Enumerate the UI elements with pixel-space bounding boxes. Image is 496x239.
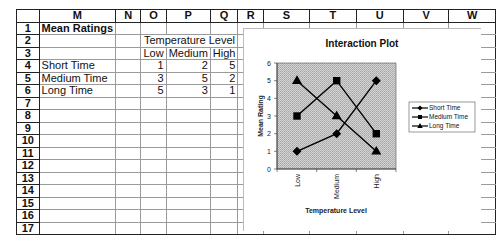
cell[interactable] [166,210,210,223]
cell-m4[interactable]: Short Time [39,60,116,73]
column-header-m[interactable]: M [39,10,116,23]
cell-m3[interactable] [39,47,116,60]
cell[interactable] [39,197,116,210]
cell[interactable] [210,122,238,135]
cell-p4[interactable]: 2 [166,60,210,73]
cell[interactable] [116,122,141,135]
cell[interactable] [166,135,210,148]
cell-o1[interactable] [141,22,166,35]
row-header-7[interactable]: 7 [17,97,40,110]
cell[interactable] [141,172,166,185]
cell[interactable] [210,222,238,235]
cell[interactable] [210,197,238,210]
cell-q4[interactable]: 5 [210,60,238,73]
row-header-15[interactable]: 15 [17,197,40,210]
cell-m1[interactable]: Mean Ratings [39,22,116,35]
cell[interactable] [39,160,116,173]
cell[interactable] [116,110,141,123]
cell-o3[interactable]: Low [141,47,166,60]
column-header-t[interactable]: T [310,10,356,23]
cell[interactable] [166,185,210,198]
cell-o2[interactable]: Temperature Level [141,35,238,48]
legend[interactable]: Short Time Medium Time Long Time [409,102,475,132]
row-header-6[interactable]: 6 [17,85,40,98]
cell[interactable] [116,210,141,223]
cell[interactable] [39,185,116,198]
cell[interactable] [210,147,238,160]
cell[interactable] [39,135,116,148]
cell[interactable] [116,135,141,148]
cell[interactable] [116,172,141,185]
cell-p5[interactable]: 5 [166,72,210,85]
cell-m2[interactable] [39,35,116,48]
row-header-12[interactable]: 12 [17,160,40,173]
cell-q6[interactable]: 1 [210,85,238,98]
cell[interactable] [141,160,166,173]
cell[interactable] [39,210,116,223]
cell-p3[interactable]: Medium [166,47,210,60]
cell-p1[interactable] [166,22,210,35]
row-header-16[interactable]: 16 [17,210,40,223]
cell[interactable] [116,160,141,173]
column-header-r[interactable]: R [238,10,263,23]
row-header-13[interactable]: 13 [17,172,40,185]
cell-n6[interactable] [116,85,141,98]
cell[interactable] [141,210,166,223]
cell[interactable] [166,110,210,123]
row-header-9[interactable]: 9 [17,122,40,135]
cell[interactable] [210,172,238,185]
cell[interactable] [141,97,166,110]
cell[interactable] [116,147,141,160]
column-header-w[interactable]: W [449,10,496,23]
row-header-4[interactable]: 4 [17,60,40,73]
cell[interactable] [166,147,210,160]
cell[interactable] [39,172,116,185]
cell[interactable] [39,122,116,135]
cell-n4[interactable] [116,60,141,73]
column-header-u[interactable]: U [356,10,403,23]
cell-p6[interactable]: 3 [166,85,210,98]
column-header-p[interactable]: P [166,10,210,23]
cell[interactable] [116,185,141,198]
row-header-14[interactable]: 14 [17,185,40,198]
cell-n2[interactable] [116,35,141,48]
row-header-2[interactable]: 2 [17,35,40,48]
cell[interactable] [116,222,141,235]
cell-q5[interactable]: 2 [210,72,238,85]
row-header-17[interactable]: 17 [17,222,40,235]
row-header-5[interactable]: 5 [17,72,40,85]
cell-m5[interactable]: Medium Time [39,72,116,85]
cell[interactable] [166,172,210,185]
column-header-o[interactable]: O [141,10,166,23]
cell[interactable] [166,197,210,210]
cell[interactable] [116,197,141,210]
cell[interactable] [39,97,116,110]
cell[interactable] [210,185,238,198]
row-header-8[interactable]: 8 [17,110,40,123]
cell[interactable] [210,135,238,148]
cell[interactable] [39,222,116,235]
cell[interactable] [141,185,166,198]
cell[interactable] [141,197,166,210]
cell[interactable] [210,97,238,110]
row-header-1[interactable]: 1 [17,22,40,35]
cell-m6[interactable]: Long Time [39,85,116,98]
cell[interactable] [116,97,141,110]
cell[interactable] [141,110,166,123]
column-header-q[interactable]: Q [210,10,238,23]
cell-q1[interactable] [210,22,238,35]
row-header-11[interactable]: 11 [17,147,40,160]
cell-o6[interactable]: 5 [141,85,166,98]
cell[interactable] [166,122,210,135]
cell-n3[interactable] [116,47,141,60]
cell-n1[interactable] [116,22,141,35]
cell[interactable] [141,222,166,235]
cell-n5[interactable] [116,72,141,85]
cell[interactable] [166,97,210,110]
cell[interactable] [166,222,210,235]
row-header-10[interactable]: 10 [17,135,40,148]
row-header-3[interactable]: 3 [17,47,40,60]
cell[interactable] [210,160,238,173]
cell-o5[interactable]: 3 [141,72,166,85]
column-header-n[interactable]: N [116,10,141,23]
